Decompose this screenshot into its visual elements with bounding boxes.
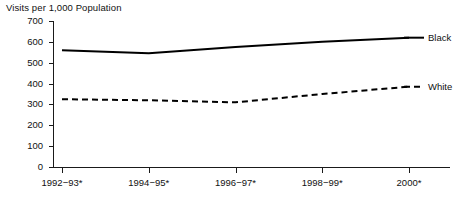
series-line-white	[62, 87, 409, 103]
y-axis-ticks	[49, 22, 54, 168]
x-axis-ticks	[63, 168, 410, 174]
y-axis-tick-label: 600	[13, 37, 43, 47]
y-axis-tick-label: 300	[13, 99, 43, 109]
legend-label-black: Black	[428, 33, 451, 43]
legend-label-white: White	[428, 82, 452, 92]
y-axis	[49, 21, 54, 168]
y-axis-tick-label: 500	[13, 58, 43, 68]
series-line-black	[62, 38, 409, 54]
data-series-group	[62, 38, 409, 103]
x-axis-tick-label: 2000*	[397, 178, 422, 188]
chart-plot-area	[0, 0, 455, 198]
y-axis-tick-label: 700	[13, 16, 43, 26]
x-axis-tick-label: 1992−93*	[42, 178, 83, 188]
y-axis-tick-label: 200	[13, 120, 43, 130]
y-axis-tick-label: 100	[13, 141, 43, 151]
x-axis-tick-label: 1998−99*	[302, 178, 343, 188]
x-axis	[53, 168, 450, 174]
x-axis-tick-label: 1994−95*	[128, 178, 169, 188]
chart-container: Visits per 1,000 Population 010020030040…	[0, 0, 455, 198]
y-axis-tick-label: 400	[13, 79, 43, 89]
x-axis-tick-label: 1996−97*	[215, 178, 256, 188]
y-axis-tick-label: 0	[13, 162, 43, 172]
legend-swatches	[404, 38, 424, 87]
